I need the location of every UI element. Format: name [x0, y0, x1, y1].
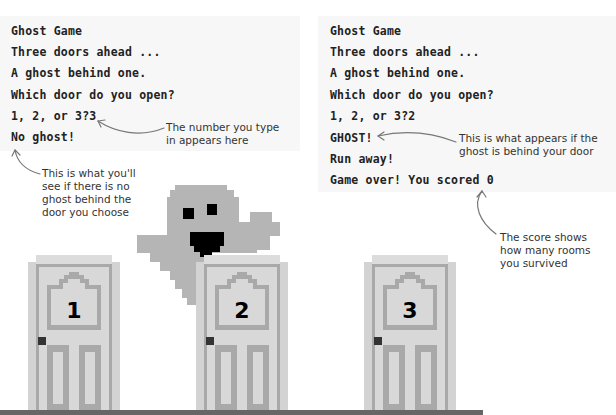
- door-1[interactable]: 1: [28, 255, 120, 415]
- door-2[interactable]: 2: [196, 255, 288, 415]
- door-1-number: 1: [66, 298, 81, 323]
- floor-line: [0, 410, 483, 415]
- door-3[interactable]: 3: [364, 255, 456, 415]
- door-3-number: 3: [402, 298, 417, 323]
- door-2-number: 2: [234, 298, 249, 323]
